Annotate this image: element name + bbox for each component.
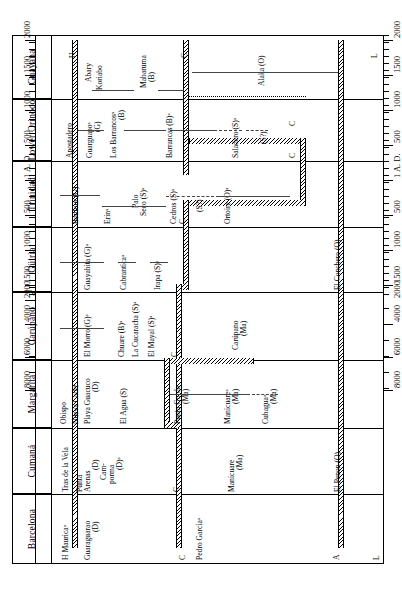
axis-tick-bottom <box>383 145 393 146</box>
axis-minor-tick <box>29 112 35 113</box>
axis-minor-tick <box>383 273 389 274</box>
site-label-cedros-uncertain: (S?) <box>196 199 204 212</box>
axis-minor-tick <box>29 35 35 36</box>
site-bar-cedros <box>166 196 190 197</box>
row-separator <box>52 161 383 162</box>
axis-minor-tick <box>29 168 35 169</box>
axis-minor-tick <box>383 308 389 309</box>
axis-minor-tick <box>29 161 35 162</box>
axis-minor-tick <box>29 154 35 155</box>
axis-tick <box>25 180 35 181</box>
axis-minor-tick <box>29 210 35 211</box>
axis-minor-tick <box>383 154 389 155</box>
axis-minor-tick <box>29 388 35 389</box>
axis-tick-label-bottom: 1500 <box>392 56 402 73</box>
site-label-barrancas: Barrancas (B)ᵃ <box>166 114 174 158</box>
saladoid-boundary-band-v3 <box>176 284 182 334</box>
site-label-lacucaracha: La Cucaracha (S)ᵃ <box>132 302 140 357</box>
site-bar-puntagorda <box>170 394 214 395</box>
historic-period-band <box>72 40 78 548</box>
axis-tick <box>25 390 35 391</box>
saladoid-boundary-band-v1 <box>300 138 306 206</box>
region-cell-lower-orinoco: Lower Orinoco <box>12 99 52 161</box>
marker-h-guayana: H <box>68 53 77 58</box>
axis-minor-tick <box>29 252 35 253</box>
axis-minor-tick <box>29 147 35 148</box>
axis-minor-tick <box>29 119 35 120</box>
axis-minor-tick <box>383 259 389 260</box>
axis-minor-tick <box>29 372 35 373</box>
axis-tick-label-bottom: 4000 <box>392 305 402 322</box>
site-label-obispo: Obispo <box>60 402 68 424</box>
axis-break-top: ∿ <box>28 287 36 298</box>
site-label-cabrantica: Cabranticaᵃ <box>120 255 128 290</box>
axis-minor-tick <box>29 189 35 190</box>
axis-minor-tick <box>29 42 35 43</box>
axis-minor-tick <box>383 252 389 253</box>
site-label-puntaarenas-line2: Arenas <box>84 470 92 492</box>
axis-minor-tick <box>383 224 389 225</box>
axis-minor-tick <box>383 266 389 267</box>
site-label-manicuare-margarita-line2: (Ma) <box>232 389 240 404</box>
axis-minor-tick <box>29 70 35 71</box>
axis-minor-tick <box>29 126 35 127</box>
axis-minor-tick <box>383 287 389 288</box>
axis-minor-tick <box>383 70 389 71</box>
site-label-elconchero: El Conchero (O) <box>334 239 342 290</box>
site-label-cubagua-line2: (Ma) <box>270 389 278 404</box>
axis-minor-tick <box>383 84 389 85</box>
axis-tick-label-bottom: 2000 <box>392 281 402 298</box>
axis-tick <box>25 110 35 111</box>
site-bar-manicuare-margarita <box>214 394 250 395</box>
site-bar-saladero-uncertain <box>246 130 268 131</box>
axis-minor-tick <box>29 91 35 92</box>
site-label-paloseco-line2: Seco (S)ᵃ <box>140 188 148 216</box>
marker-c-guayana: C <box>180 53 189 58</box>
axis-minor-tick <box>29 182 35 183</box>
axis-tick-label-bottom: 1 A. D. <box>392 153 402 178</box>
site-label-pedrogarcia: Pedro Garcíaᵃ <box>196 518 204 560</box>
axis-tick <box>25 145 35 146</box>
axis-tick <box>25 300 35 301</box>
site-bar-irapa <box>150 262 168 263</box>
axis-minor-tick <box>29 105 35 106</box>
site-label-elagua: El Agua (S) <box>120 388 128 424</box>
axis-minor-tick <box>29 224 35 225</box>
axis-minor-tick <box>29 63 35 64</box>
marker-c-trinidad: C <box>178 219 187 224</box>
marker-l-barcelona: L <box>372 555 381 560</box>
axis-minor-tick <box>383 196 389 197</box>
axis-minor-tick <box>29 245 35 246</box>
axis-minor-tick <box>29 49 35 50</box>
row-separator <box>52 428 383 429</box>
axis-tick-bottom <box>383 180 393 181</box>
axis-minor-tick <box>383 77 389 78</box>
marker-c-barcelona: C <box>178 555 187 560</box>
axis-minor-tick <box>29 77 35 78</box>
axis-minor-tick <box>29 266 35 267</box>
site-bar-mabaruma <box>158 90 184 91</box>
axis-minor-tick <box>29 273 35 274</box>
axis-tick-label-bottom: 500 <box>392 200 402 213</box>
axis-tick-bottom <box>383 357 393 358</box>
axis-tick <box>25 357 35 358</box>
axis-minor-tick <box>383 189 389 190</box>
axis-minor-tick <box>29 308 35 309</box>
site-bar-alaka <box>192 72 338 73</box>
site-label-mabaruma-line2: (B) <box>148 72 156 82</box>
site-label-apostadero: Apostadero <box>66 123 74 158</box>
site-label-koriabo: Koriabo <box>96 65 104 90</box>
site-label-puntagorda-line2: (Ma) <box>182 389 190 404</box>
axis-minor-tick <box>29 196 35 197</box>
region-cell-guayana: Guayana <box>12 35 52 99</box>
axis-tick-label-bottom: 6000 <box>392 338 402 355</box>
site-label-nuevacadiz: Nueva Cadiz <box>72 385 80 424</box>
axis-minor-tick <box>383 140 389 141</box>
marker-l-guayana: L <box>370 53 379 58</box>
axis-minor-tick <box>383 238 389 239</box>
manicuaroid-band-h1 <box>164 358 254 364</box>
site-bar-paloseco <box>138 206 166 207</box>
axis-minor-tick <box>29 280 35 281</box>
site-bar-guayabita <box>60 262 104 263</box>
site-bar-barrancas <box>170 130 214 131</box>
